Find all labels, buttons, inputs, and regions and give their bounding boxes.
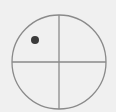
- marker-dot: [31, 36, 39, 44]
- crosshair-circle-diagram: [0, 0, 116, 112]
